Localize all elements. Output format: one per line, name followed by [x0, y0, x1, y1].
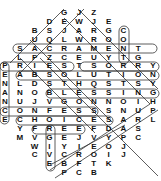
- letter-cell[interactable]: Z: [43, 53, 55, 62]
- letter-cell[interactable]: R: [88, 26, 100, 35]
- letter-cell[interactable]: U: [132, 106, 144, 115]
- letter-cell[interactable]: A: [117, 124, 129, 133]
- letter-cell[interactable]: L: [14, 53, 26, 62]
- letter-cell[interactable]: W: [73, 35, 85, 44]
- letter-cell[interactable]: V: [29, 133, 41, 142]
- letter-cell[interactable]: O: [117, 35, 129, 44]
- letter-cell[interactable]: G: [132, 53, 144, 62]
- letter-cell[interactable]: S: [73, 106, 85, 115]
- letter-cell[interactable]: J: [58, 26, 70, 35]
- letter-cell[interactable]: T: [58, 79, 70, 88]
- letter-cell[interactable]: D: [43, 17, 55, 26]
- letter-cell[interactable]: B: [43, 88, 55, 97]
- letter-cell[interactable]: P: [58, 168, 70, 177]
- letter-cell[interactable]: H: [147, 97, 159, 106]
- letter-cell[interactable]: R: [14, 61, 26, 70]
- letter-cell[interactable]: E: [73, 88, 85, 97]
- letter-cell[interactable]: G: [43, 133, 55, 142]
- letter-cell[interactable]: V: [43, 97, 55, 106]
- letter-cell[interactable]: I: [117, 70, 129, 79]
- letter-cell[interactable]: G: [147, 88, 159, 97]
- letter-cell[interactable]: G: [58, 8, 70, 17]
- letter-cell[interactable]: C: [117, 26, 129, 35]
- letter-cell[interactable]: N: [117, 106, 129, 115]
- letter-cell[interactable]: O: [73, 97, 85, 106]
- letter-cell[interactable]: G: [58, 97, 70, 106]
- letter-cell[interactable]: R: [117, 61, 129, 70]
- letter-cell[interactable]: E: [58, 133, 70, 142]
- letter-cell[interactable]: Z: [88, 8, 100, 17]
- letter-cell[interactable]: N: [0, 97, 11, 106]
- letter-cell[interactable]: S: [103, 79, 115, 88]
- letter-cell[interactable]: J: [73, 8, 85, 17]
- letter-cell[interactable]: N: [117, 44, 129, 53]
- letter-cell[interactable]: T: [132, 44, 144, 53]
- letter-cell[interactable]: E: [88, 115, 100, 124]
- letter-cell[interactable]: A: [29, 44, 41, 53]
- letter-cell[interactable]: C: [43, 44, 55, 53]
- letter-cell[interactable]: N: [0, 79, 11, 88]
- letter-cell[interactable]: T: [117, 79, 129, 88]
- letter-cell[interactable]: E: [0, 115, 11, 124]
- letter-cell[interactable]: T: [117, 53, 129, 62]
- letter-cell[interactable]: Y: [103, 133, 115, 142]
- letter-cell[interactable]: E: [43, 61, 55, 70]
- letter-cell[interactable]: D: [29, 79, 41, 88]
- letter-cell[interactable]: L: [58, 35, 70, 44]
- letter-cell[interactable]: U: [29, 35, 41, 44]
- letter-cell[interactable]: C: [0, 106, 11, 115]
- letter-cell[interactable]: O: [103, 142, 115, 151]
- letter-cell[interactable]: C: [132, 133, 144, 142]
- letter-cell[interactable]: S: [103, 106, 115, 115]
- letter-cell[interactable]: L: [14, 79, 26, 88]
- letter-cell[interactable]: E: [58, 17, 70, 26]
- letter-cell[interactable]: S: [103, 88, 115, 97]
- letter-cell[interactable]: S: [132, 79, 144, 88]
- letter-cell[interactable]: P: [0, 61, 11, 70]
- letter-cell[interactable]: H: [29, 115, 41, 124]
- letter-cell[interactable]: Y: [103, 53, 115, 62]
- letter-cell[interactable]: D: [103, 124, 115, 133]
- letter-cell[interactable]: A: [73, 26, 85, 35]
- letter-cell[interactable]: U: [88, 70, 100, 79]
- letter-cell[interactable]: M: [88, 44, 100, 53]
- letter-cell[interactable]: E: [73, 124, 85, 133]
- letter-cell[interactable]: Y: [58, 142, 70, 151]
- letter-cell[interactable]: O: [29, 88, 41, 97]
- letter-cell[interactable]: F: [29, 124, 41, 133]
- letter-cell[interactable]: E: [73, 53, 85, 62]
- letter-cell[interactable]: A: [73, 44, 85, 53]
- letter-cell[interactable]: R: [88, 35, 100, 44]
- letter-cell[interactable]: F: [43, 106, 55, 115]
- letter-cell[interactable]: O: [88, 150, 100, 159]
- letter-cell[interactable]: L: [58, 88, 70, 97]
- letter-cell[interactable]: G: [103, 26, 115, 35]
- letter-cell[interactable]: T: [103, 70, 115, 79]
- letter-cell[interactable]: F: [73, 159, 85, 168]
- letter-cell[interactable]: A: [14, 70, 26, 79]
- letter-cell[interactable]: O: [103, 61, 115, 70]
- letter-cell[interactable]: R: [73, 150, 85, 159]
- letter-cell[interactable]: I: [73, 142, 85, 151]
- letter-cell[interactable]: O: [58, 70, 70, 79]
- letter-cell[interactable]: A: [0, 88, 11, 97]
- letter-cell[interactable]: J: [29, 97, 41, 106]
- letter-cell[interactable]: A: [117, 115, 129, 124]
- letter-cell[interactable]: R: [132, 115, 144, 124]
- letter-cell[interactable]: R: [132, 61, 144, 70]
- letter-cell[interactable]: O: [117, 97, 129, 106]
- letter-cell[interactable]: I: [29, 61, 41, 70]
- letter-cell[interactable]: U: [88, 53, 100, 62]
- letter-cell[interactable]: P: [147, 106, 159, 115]
- letter-cell[interactable]: C: [29, 150, 41, 159]
- letter-cell[interactable]: I: [43, 142, 55, 151]
- letter-cell[interactable]: O: [43, 115, 55, 124]
- letter-cell[interactable]: O: [14, 106, 26, 115]
- letter-cell[interactable]: I: [58, 115, 70, 124]
- letter-cell[interactable]: C: [58, 53, 70, 62]
- letter-cell[interactable]: U: [14, 97, 26, 106]
- letter-cell[interactable]: O: [103, 35, 115, 44]
- letter-cell[interactable]: S: [14, 44, 26, 53]
- letter-cell[interactable]: L: [147, 115, 159, 124]
- letter-cell[interactable]: S: [58, 61, 70, 70]
